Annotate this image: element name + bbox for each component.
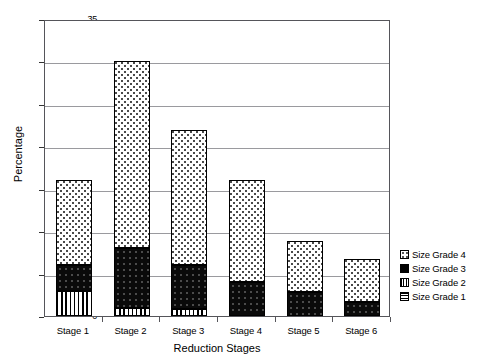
- legend-swatch-icon: [400, 292, 409, 301]
- x-tick-mark: [102, 317, 103, 322]
- gridline: [45, 191, 389, 192]
- bar-segment[interactable]: [56, 180, 92, 265]
- gridline: [45, 233, 389, 234]
- legend-item-label: Size Grade 2: [412, 278, 466, 288]
- x-tick-mark: [159, 317, 160, 322]
- x-tick-label: Stage 5: [275, 325, 333, 336]
- bar-segment[interactable]: [229, 282, 265, 316]
- bar-group[interactable]: [171, 19, 207, 316]
- bar-segment[interactable]: [171, 309, 207, 316]
- legend-item[interactable]: Size Grade 2: [400, 276, 491, 289]
- x-tick-label: Stage 3: [159, 325, 217, 336]
- x-tick-mark: [332, 317, 333, 322]
- stacked-bar-chart: Percentage 05101520253035 Stage 1Stage 2…: [0, 0, 491, 360]
- bar-segment[interactable]: [344, 259, 380, 301]
- x-tick-label: Stage 1: [44, 325, 102, 336]
- bar-group[interactable]: [56, 19, 92, 316]
- legend-swatch-icon: [400, 264, 409, 273]
- bar-segment[interactable]: [171, 265, 207, 309]
- gridline: [45, 148, 389, 149]
- bar-segment[interactable]: [56, 265, 92, 290]
- y-tick-mark: [39, 317, 44, 318]
- bar-segment[interactable]: [114, 248, 150, 308]
- bar-group[interactable]: [229, 19, 265, 316]
- legend-item[interactable]: Size Grade 3: [400, 262, 491, 275]
- y-axis-title: Percentage: [12, 104, 24, 204]
- bar-segment[interactable]: [114, 308, 150, 316]
- chart-legend: Size Grade 4Size Grade 3Size Grade 2Size…: [400, 248, 491, 304]
- bar-segment[interactable]: [56, 291, 92, 316]
- legend-item-label: Size Grade 1: [412, 292, 466, 302]
- x-tick-label: Stage 4: [217, 325, 275, 336]
- x-tick-label: Stage 6: [332, 325, 390, 336]
- x-tick-label: Stage 2: [102, 325, 160, 336]
- bar-group[interactable]: [344, 19, 380, 316]
- legend-item-label: Size Grade 3: [412, 264, 466, 274]
- x-tick-mark: [390, 317, 391, 322]
- bar-group[interactable]: [287, 19, 323, 316]
- legend-swatch-icon: [400, 278, 409, 287]
- gridline: [45, 276, 389, 277]
- gridline: [45, 63, 389, 64]
- x-tick-mark: [217, 317, 218, 322]
- bar-segment[interactable]: [287, 292, 323, 316]
- bar-segment[interactable]: [114, 61, 150, 248]
- bar-segment[interactable]: [171, 130, 207, 265]
- bar-segment[interactable]: [229, 180, 265, 282]
- bar-segment[interactable]: [344, 302, 380, 316]
- bar-segment[interactable]: [287, 241, 323, 293]
- gridline: [45, 106, 389, 107]
- bar-group[interactable]: [114, 19, 150, 316]
- x-tick-mark: [275, 317, 276, 322]
- plot-area: [44, 20, 390, 317]
- legend-item-label: Size Grade 4: [412, 250, 466, 260]
- legend-swatch-icon: [400, 250, 409, 259]
- legend-item[interactable]: Size Grade 1: [400, 290, 491, 303]
- legend-item[interactable]: Size Grade 4: [400, 248, 491, 261]
- x-axis-title: Reduction Stages: [44, 342, 390, 354]
